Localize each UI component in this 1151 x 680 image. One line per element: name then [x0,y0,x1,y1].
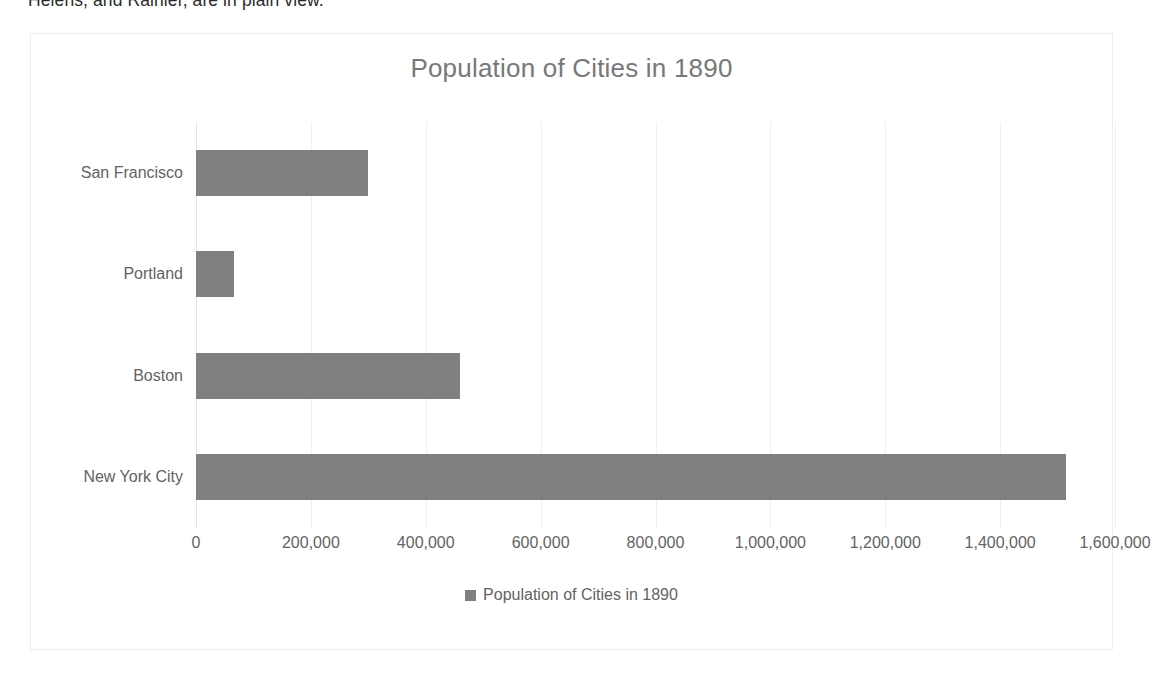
bar-row[interactable] [196,122,1115,224]
value-axis-label: 600,000 [512,534,570,552]
category-axis-label: San Francisco [31,122,183,224]
category-axis-label: Boston [31,325,183,427]
bar[interactable] [196,353,460,399]
bar[interactable] [196,251,234,297]
value-axis-label: 800,000 [627,534,685,552]
bar-row[interactable] [196,427,1115,529]
bar[interactable] [196,454,1066,500]
value-axis-label: 0 [192,534,201,552]
value-axis-label: 200,000 [282,534,340,552]
legend-swatch-icon [465,590,476,601]
value-axis-label: 1,400,000 [965,534,1036,552]
plot-area [196,122,1115,528]
legend-label: Population of Cities in 1890 [483,586,678,604]
value-axis-label: 400,000 [397,534,455,552]
bar-series [196,122,1115,528]
chart-legend[interactable]: Population of Cities in 1890 [31,586,1112,604]
value-axis-label: 1,000,000 [735,534,806,552]
value-axis-label: 1,600,000 [1079,534,1150,552]
category-axis: San FranciscoPortlandBostonNew York City [31,122,183,528]
category-axis-label: New York City [31,427,183,529]
bar-row[interactable] [196,224,1115,326]
bar-row[interactable] [196,325,1115,427]
chart-title: Population of Cities in 1890 [31,53,1112,84]
value-axis-label: 1,200,000 [850,534,921,552]
gridline [1115,122,1116,528]
chart-container[interactable]: Population of Cities in 1890 San Francis… [30,33,1113,650]
document-text-line: Helens, and Rainier, are in plain view. [28,0,928,11]
value-axis: 0200,000400,000600,000800,0001,000,0001,… [196,534,1115,560]
bar[interactable] [196,150,368,196]
category-axis-label: Portland [31,224,183,326]
